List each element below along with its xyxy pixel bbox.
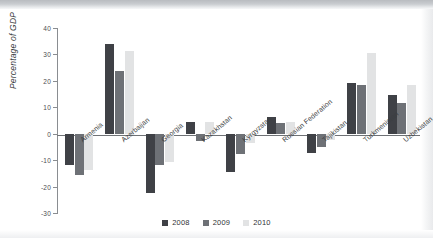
bar[interactable] — [115, 71, 124, 134]
y-axis-tick-mark — [53, 107, 58, 108]
y-axis-tick-mark — [53, 134, 58, 135]
bar[interactable] — [307, 134, 316, 153]
y-axis-tick-label: -30 — [41, 210, 51, 217]
y-axis-tick-label: 40 — [43, 25, 51, 32]
legend-swatch — [243, 220, 249, 226]
bar[interactable] — [65, 134, 74, 165]
bar[interactable] — [367, 53, 376, 134]
bar[interactable] — [105, 44, 114, 133]
y-axis-tick-label: 0 — [47, 130, 51, 137]
legend-label: 2010 — [253, 218, 271, 227]
bar-group — [65, 28, 93, 213]
y-axis-tick-label: 10 — [43, 104, 51, 111]
bar-group — [105, 28, 133, 213]
chart-legend: 200820092010 — [0, 218, 433, 227]
bar[interactable] — [125, 51, 134, 134]
bar[interactable] — [357, 85, 366, 133]
page-top-band — [0, 0, 433, 9]
legend-label: 2009 — [213, 218, 231, 227]
y-axis-tick-mark — [53, 213, 58, 214]
bar[interactable] — [226, 134, 235, 172]
legend-item[interactable]: 2008 — [162, 218, 190, 227]
y-axis-line — [57, 28, 58, 213]
y-axis-tick-mark — [53, 28, 58, 29]
legend-label: 2008 — [172, 218, 190, 227]
y-axis-tick-label: 20 — [43, 77, 51, 84]
bar[interactable] — [186, 122, 195, 134]
legend-item[interactable]: 2010 — [243, 218, 271, 227]
scanned-page: Percentage of GDP 403020100-10-20-30 Arm… — [0, 0, 433, 238]
y-axis-tick-mark — [53, 187, 58, 188]
bar-group — [186, 28, 214, 213]
bar-chart: Percentage of GDP 403020100-10-20-30 Arm… — [0, 9, 433, 238]
y-axis-tick-label: -20 — [41, 183, 51, 190]
y-axis-tick-mark — [53, 160, 58, 161]
legend-item[interactable]: 2009 — [203, 218, 231, 227]
bar[interactable] — [397, 103, 406, 134]
legend-swatch — [162, 220, 168, 226]
bar[interactable] — [276, 123, 285, 134]
y-axis-tick-label: 30 — [43, 51, 51, 58]
legend-swatch — [203, 220, 209, 226]
y-axis-tick-mark — [53, 54, 58, 55]
bar-group — [347, 28, 375, 213]
y-axis-tick-label: -10 — [41, 157, 51, 164]
bar[interactable] — [146, 134, 155, 193]
bar[interactable] — [347, 83, 356, 134]
y-axis-tick-mark — [53, 81, 58, 82]
y-axis-title: Percentage of GDP — [8, 0, 18, 89]
plot-area: 403020100-10-20-30 ArmeniaAzerbaijanGeor… — [57, 28, 420, 213]
